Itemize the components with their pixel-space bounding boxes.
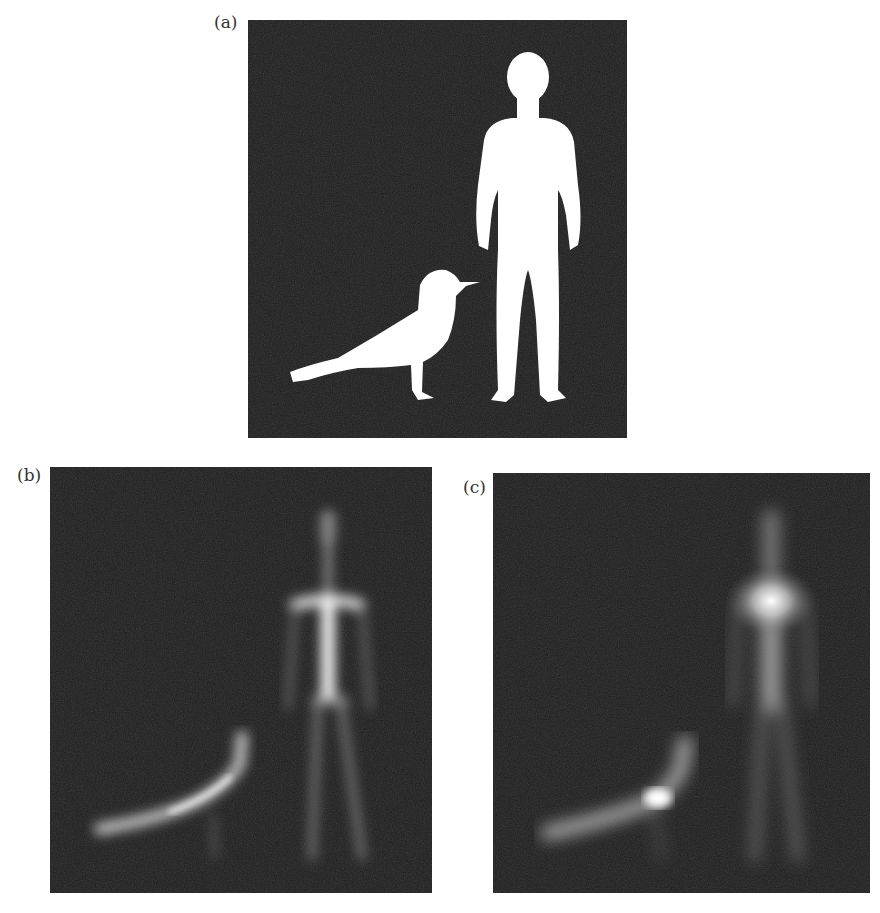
panel-b-label: (b): [17, 465, 41, 485]
panel-b-skeleton-image: [50, 467, 432, 893]
skeleton-response-b-graphic: [50, 467, 432, 893]
bird-body-glow-c: [644, 788, 672, 808]
silhouettes-graphic: [248, 20, 627, 438]
human-torso-glow-c: [726, 566, 816, 636]
panel-c-label: (c): [463, 477, 486, 497]
panel-a-silhouette-image: [248, 20, 627, 438]
skeleton-response-c-graphic: [493, 473, 870, 893]
panel-a-label: (a): [214, 12, 237, 32]
panel-c-skeleton-image: [493, 473, 870, 893]
